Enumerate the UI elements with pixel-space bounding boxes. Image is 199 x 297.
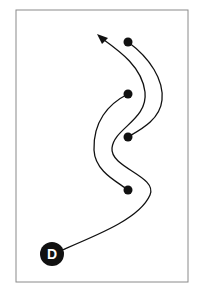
diagram-canvas: D	[0, 0, 199, 297]
dot-4	[124, 186, 133, 195]
dot-3	[124, 133, 133, 142]
dot-1	[124, 38, 133, 47]
frame	[16, 10, 188, 282]
start-label: D	[47, 246, 57, 262]
dot-2	[124, 90, 133, 99]
